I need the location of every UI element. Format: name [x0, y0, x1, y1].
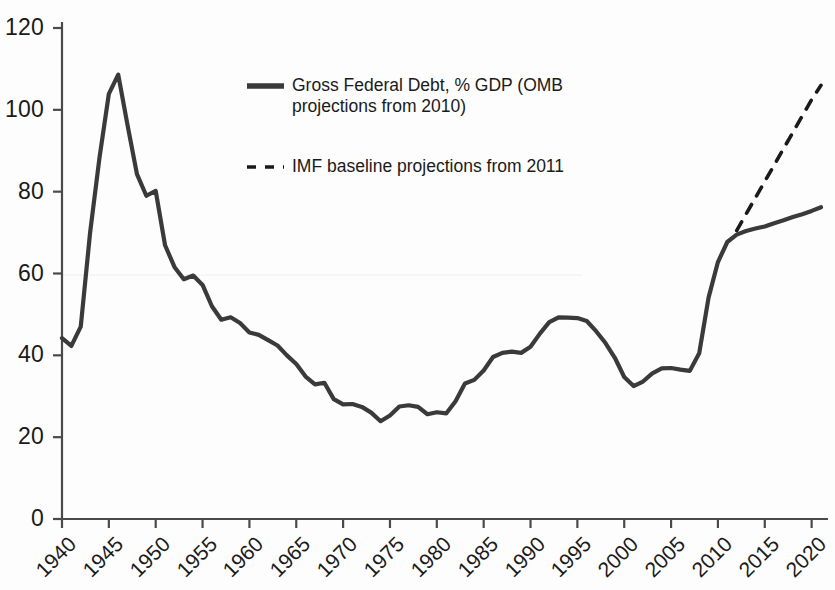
- y-tick-label: 0: [0, 505, 44, 532]
- y-tick-label: 80: [0, 178, 44, 205]
- legend-label-gross-federal-debt: Gross Federal Debt, % GDP (OMB projectio…: [292, 75, 632, 117]
- y-tick-label: 120: [0, 14, 44, 41]
- chart-container: 020406080100120 194019451950195519601965…: [0, 0, 835, 590]
- x-axis-ticks: [62, 519, 812, 528]
- legend-label-imf-baseline: IMF baseline projections from 2011: [292, 156, 652, 177]
- legend-swatches: [247, 86, 284, 167]
- data-series-group: [62, 75, 821, 422]
- y-tick-label: 100: [0, 96, 44, 123]
- y-tick-label: 60: [0, 260, 44, 287]
- y-tick-label: 20: [0, 423, 44, 450]
- series-line-gross-federal-debt: [62, 75, 821, 422]
- series-line-imf-baseline: [737, 85, 821, 230]
- y-axis-ticks: [53, 28, 62, 519]
- y-tick-label: 40: [0, 341, 44, 368]
